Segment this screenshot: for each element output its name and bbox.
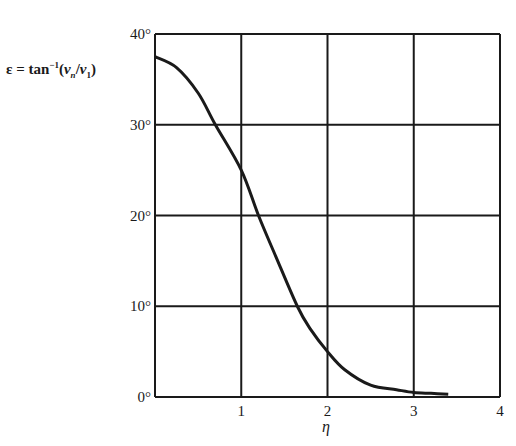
grid-lines (155, 34, 500, 397)
data-series-curve (155, 57, 448, 395)
y-tick-label: 30° (130, 117, 151, 133)
y-tick-label: 40° (130, 26, 151, 42)
x-tick-label: 1 (238, 403, 246, 419)
y-tick-label: 20° (130, 208, 151, 224)
axis-tick-labels: 12340°10°20°30°40° (130, 26, 504, 419)
x-tick-label: 3 (410, 403, 418, 419)
x-axis-label: η (322, 418, 330, 436)
y-tick-label: 10° (130, 298, 151, 314)
x-tick-label: 2 (324, 403, 332, 419)
y-axis-label: ε = tan−1(vn/v1) (6, 60, 96, 80)
x-tick-label: 4 (496, 403, 504, 419)
y-tick-label: 0° (138, 389, 152, 405)
